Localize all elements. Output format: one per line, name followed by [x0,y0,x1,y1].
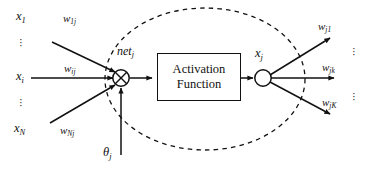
input-edge-N [50,85,115,123]
output-weight-label-j1: wj1 [318,21,331,32]
activation-box-line1: Activation [173,62,226,77]
neuron-diagram: Activation Function x1 xi xN · · · · · ·… [0,0,370,174]
output-weight-label-jk: wjk [322,62,335,73]
input-label-N: xN [14,122,25,135]
activation-function-box: Activation Function [157,53,241,101]
ellipsis-dot: · [19,44,23,47]
input-ellipsis-upper: · · · [19,38,23,48]
input-ellipsis-lower: · · · [19,98,23,108]
input-label-1: x1 [16,10,26,23]
output-label-base: x [255,46,261,60]
input-edge-1 [52,42,115,72]
ellipsis-dot: · [352,98,356,101]
input-label-N-base: x [14,121,20,135]
input-weight-1j-sub: 1j [70,17,76,26]
input-label-i: xi [16,70,24,83]
input-weight-label-Nj: wNj [60,125,74,136]
bias-label: θj [103,146,112,159]
net-label-base: net [117,44,132,58]
output-ellipsis-upper: · · · [352,47,356,57]
output-weight-jk-sub: jk [329,66,334,75]
input-label-N-sub: N [20,127,26,137]
output-weight-jK-sub: jK [329,101,336,110]
output-weight-label-jK: wjK [322,97,336,108]
ellipsis-dot: · [19,104,23,107]
net-label: netj [117,45,134,57]
output-node [255,70,271,86]
input-label-1-base: x [16,9,22,23]
activation-box-line2: Function [177,77,221,92]
input-label-1-sub: 1 [22,15,26,25]
net-label-sub: j [132,50,134,59]
input-weight-label-1j: w1j [63,13,76,24]
output-ellipsis-lower: · · · [352,92,356,102]
input-weight-ij-sub: ij [71,67,75,76]
input-weight-label-ij: wij [64,63,76,74]
output-label: xj [255,47,263,60]
output-label-sub: j [261,52,263,62]
input-label-i-base: x [16,69,22,83]
output-weight-j1-sub: j1 [325,25,331,34]
output-edge-j1 [270,38,330,75]
bias-label-sub: j [109,151,111,161]
summation-node [113,70,129,86]
input-label-i-sub: i [22,75,24,85]
ellipsis-dot: · [352,53,356,56]
input-weight-Nj-sub: Nj [67,129,74,138]
output-edge-jK [270,82,330,114]
